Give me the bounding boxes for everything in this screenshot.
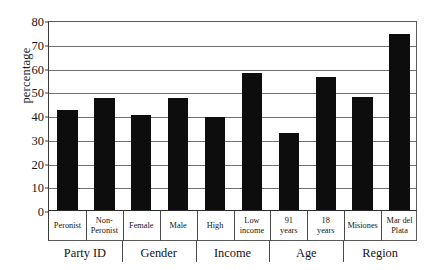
y-tick-mark [45,117,49,118]
y-tick-mark [45,22,49,23]
bar [205,117,225,210]
category-divider [307,211,308,241]
category-label: Male [160,211,197,241]
bar [352,97,372,210]
category-label: Female [123,211,160,241]
y-tick-label: 40 [32,110,45,125]
y-tick-label: 80 [32,15,45,30]
category-divider [160,211,161,241]
category-divider [123,211,124,241]
category-label: Non-Peronist [86,211,123,241]
y-tick-mark [45,140,49,141]
y-tick-mark [45,45,49,46]
group-divider [343,240,344,262]
bar-chart-figure: percentage 01020304050607080 PeronistNon… [0,0,425,270]
bar [57,110,77,210]
bar [242,73,262,210]
y-tick-mark [45,164,49,165]
category-label: Misiones [344,211,381,241]
gridline [49,70,416,71]
y-tick-mark [45,93,49,94]
gridline [49,93,416,94]
y-tick-label: 70 [32,38,45,53]
bar [389,34,409,210]
group-label: Age [269,241,343,265]
category-divider [197,211,198,241]
bar [279,133,299,210]
category-divider [86,211,87,241]
group-divider [196,240,197,262]
category-divider [381,211,382,241]
y-tick-mark [45,188,49,189]
category-axis-band: PeronistNon-PeronistFemaleMaleHighLowinc… [48,211,417,241]
group-label: Gender [122,241,196,265]
y-tick-mark [45,69,49,70]
category-label: High [197,211,234,241]
group-axis-band: Party IDGenderIncomeAgeRegion [48,241,417,265]
category-divider [234,211,235,241]
bar [94,98,114,210]
plot-area: 01020304050607080 [48,21,417,211]
category-label: Lowincome [234,211,271,241]
bar [131,115,151,210]
y-tick-label: 20 [32,157,45,172]
bar [168,98,188,210]
category-divider [270,211,271,241]
gridline [49,46,416,47]
category-label: 91years [270,211,307,241]
group-label: Party ID [48,241,122,265]
group-label: Region [343,241,417,265]
category-divider [344,211,345,241]
y-tick-label: 60 [32,62,45,77]
group-divider [269,240,270,262]
y-tick-label: 0 [38,205,44,220]
group-label: Income [196,241,270,265]
y-tick-label: 10 [32,181,45,196]
y-tick-label: 50 [32,86,45,101]
category-label: Peronist [49,211,86,241]
category-label: 18years [307,211,344,241]
bar [316,77,336,210]
category-label: Mar delPlata [381,211,418,241]
y-tick-label: 30 [32,133,45,148]
group-divider [122,240,123,262]
